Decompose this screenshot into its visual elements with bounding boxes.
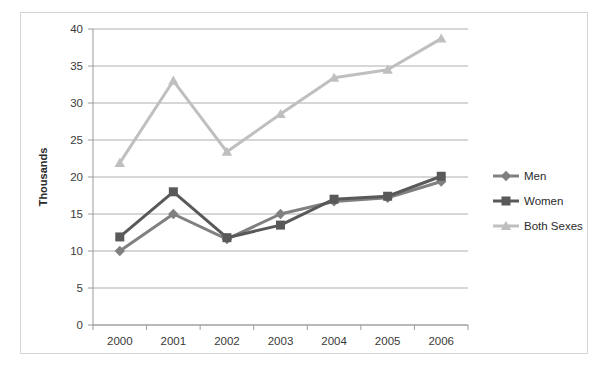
xtick-label-2006: 2006 bbox=[428, 335, 454, 347]
chart-frame: 0510152025303540200020012002200320042005… bbox=[20, 12, 588, 354]
datapoint-both-sexes-2001 bbox=[168, 76, 178, 85]
ytick-label-20: 20 bbox=[70, 171, 83, 183]
xtick-label-2001: 2001 bbox=[161, 335, 187, 347]
ytick-label-0: 0 bbox=[77, 319, 83, 331]
ytick-label-25: 25 bbox=[70, 134, 83, 146]
xtick-label-2005: 2005 bbox=[375, 335, 401, 347]
ytick-label-35: 35 bbox=[70, 60, 83, 72]
datapoint-women-2006 bbox=[437, 172, 446, 181]
datapoint-women-2001 bbox=[169, 187, 178, 196]
ytick-label-40: 40 bbox=[70, 23, 83, 35]
datapoint-women-2002 bbox=[222, 233, 231, 242]
series-line-both-sexes bbox=[120, 39, 441, 163]
line-chart: 0510152025303540200020012002200320042005… bbox=[21, 13, 587, 353]
legend-label-women[interactable]: Women bbox=[524, 195, 563, 207]
ytick-label-30: 30 bbox=[70, 97, 83, 109]
ytick-label-5: 5 bbox=[77, 282, 83, 294]
legend-label-both-sexes[interactable]: Both Sexes bbox=[524, 220, 583, 232]
datapoint-men-2003 bbox=[275, 209, 285, 219]
xtick-label-2002: 2002 bbox=[214, 335, 240, 347]
datapoint-both-sexes-2006 bbox=[436, 33, 446, 42]
ytick-label-10: 10 bbox=[70, 245, 83, 257]
xtick-label-2000: 2000 bbox=[107, 335, 133, 347]
xtick-label-2004: 2004 bbox=[321, 335, 347, 347]
legend-marker-men bbox=[501, 171, 511, 181]
legend-label-men[interactable]: Men bbox=[524, 170, 546, 182]
datapoint-women-2005 bbox=[383, 192, 392, 201]
y-axis-title: Thousands bbox=[37, 148, 49, 207]
xtick-label-2003: 2003 bbox=[268, 335, 294, 347]
datapoint-women-2003 bbox=[276, 221, 285, 230]
ytick-label-15: 15 bbox=[70, 208, 83, 220]
legend-marker-women bbox=[502, 197, 511, 206]
datapoint-women-2000 bbox=[115, 232, 124, 241]
datapoint-women-2004 bbox=[330, 195, 339, 204]
